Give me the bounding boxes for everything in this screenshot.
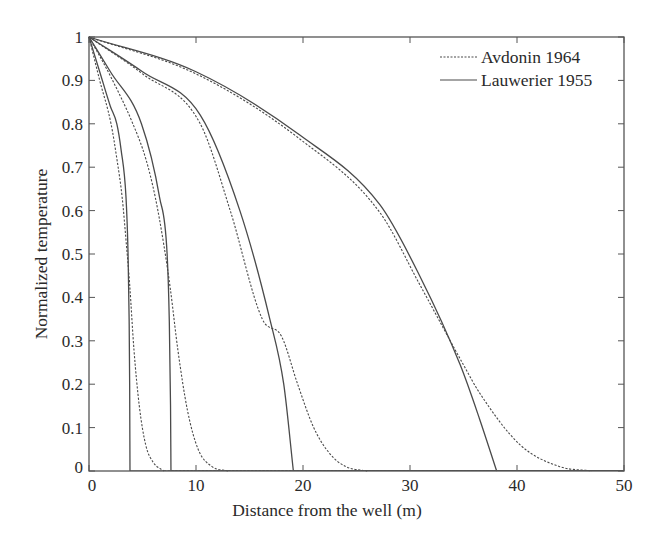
y-tick-label: 0.2	[62, 375, 83, 394]
y-tick-label: 0.5	[62, 245, 83, 264]
x-tick-label: 0	[88, 476, 97, 495]
legend-label-lauwerier: Lauwerier 1955	[481, 70, 593, 90]
y-tick-label: 0.1	[62, 419, 83, 438]
avdonin-curve-2	[89, 37, 228, 471]
axis-ticks	[89, 37, 624, 471]
legend: Avdonin 1964 Lauwerier 1955	[440, 47, 593, 90]
legend-label-avdonin: Avdonin 1964	[481, 47, 581, 67]
lauwerier-curve-4	[89, 37, 497, 471]
x-tick-label: 50	[616, 476, 633, 495]
lauwerier-curve-3	[89, 37, 293, 471]
y-tick-label: 0.3	[62, 332, 83, 351]
y-tick-label: 0.6	[62, 202, 83, 221]
y-tick-labels: 00.10.20.30.40.50.60.70.80.91	[62, 28, 84, 477]
plot-area	[89, 37, 624, 471]
x-tick-labels: 01020304050	[88, 476, 633, 495]
y-tick-label: 0.9	[62, 71, 83, 90]
x-tick-label: 40	[509, 476, 526, 495]
x-tick-label: 30	[402, 476, 419, 495]
y-tick-label: 0	[75, 458, 84, 477]
y-tick-label: 1	[75, 28, 84, 47]
x-tick-label: 10	[188, 476, 205, 495]
x-axis-title: Distance from the well (m)	[232, 500, 422, 520]
y-axis-title: Normalized temperature	[31, 169, 51, 340]
avdonin-curve-4	[89, 37, 592, 471]
y-tick-label: 0.4	[62, 288, 84, 307]
y-tick-label: 0.8	[62, 115, 83, 134]
x-tick-label: 20	[295, 476, 312, 495]
line-chart: 01020304050 00.10.20.30.40.50.60.70.80.9…	[0, 0, 660, 539]
avdonin-curve-3	[89, 37, 367, 471]
axes-frame	[89, 37, 624, 471]
y-tick-label: 0.7	[62, 158, 84, 177]
avdonin-curve-1	[89, 37, 164, 471]
